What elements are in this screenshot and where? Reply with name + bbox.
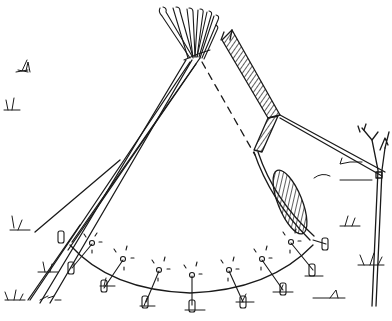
tipi-illustration: Line drawing of a tipi with guy rope tie… xyxy=(0,0,392,321)
stakes xyxy=(58,229,328,312)
grass xyxy=(4,60,384,310)
guy-rope xyxy=(280,115,385,172)
left-poles xyxy=(28,60,196,303)
pole-tips xyxy=(159,7,218,60)
cover-left-edge xyxy=(72,58,200,242)
tipi-drawing xyxy=(0,0,392,321)
tree xyxy=(358,124,389,306)
door-icon xyxy=(266,166,314,238)
smoke-flap xyxy=(221,30,280,152)
